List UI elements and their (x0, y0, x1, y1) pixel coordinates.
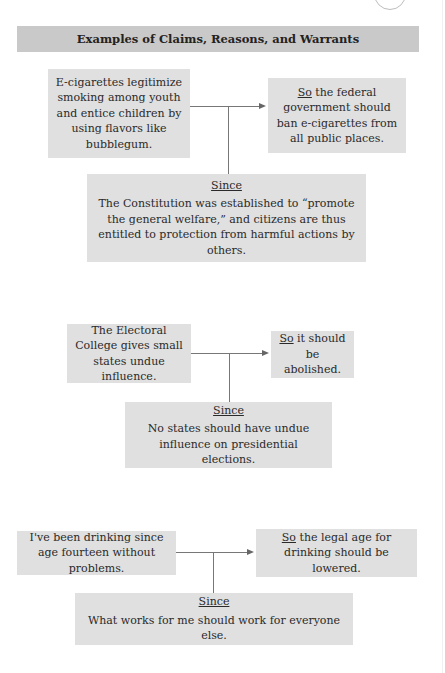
reason-text: I've been drinking since age fourteen wi… (23, 530, 170, 577)
figure-title: Examples of Claims, Reasons, and Warrant… (77, 32, 359, 46)
warrant-text: The Constitution was established to “pro… (93, 196, 360, 258)
warrant-text: No states should have undue influence on… (131, 421, 326, 468)
warrant-keyword: Since (199, 594, 230, 610)
connector-line (228, 106, 229, 174)
reason-box-2: The Electoral College gives small states… (67, 324, 191, 383)
claim-box-3: So the legal age for drinking should be … (256, 529, 417, 577)
warrant-keyword: Since (213, 403, 244, 419)
connector-line (176, 552, 248, 553)
claim-text: the federal government should ban e-ciga… (277, 86, 397, 146)
reason-text: E-cigarettes legitimize smoking among yo… (54, 75, 184, 153)
warrant-box-3: Since What works for me should work for … (75, 593, 353, 645)
connector-line (229, 353, 230, 402)
arrow-right-icon (262, 350, 269, 356)
connector-line (213, 552, 214, 593)
reason-box-1: E-cigarettes legitimize smoking among yo… (48, 69, 190, 158)
arrow-right-icon (247, 549, 254, 555)
warrant-box-2: Since No states should have undue influe… (125, 402, 332, 468)
warrant-keyword: Since (211, 178, 242, 194)
claim-keyword: So (279, 332, 293, 345)
page-edge-divider (442, 0, 443, 673)
claim-text: it should be abolished. (284, 332, 346, 376)
figure-title-bar: Examples of Claims, Reasons, and Warrant… (17, 26, 419, 52)
claim-text: the legal age for drinking should be low… (284, 531, 391, 575)
reason-text: The Electoral College gives small states… (73, 323, 185, 385)
page-corner-circle-icon (374, 0, 406, 10)
warrant-text: What works for me should work for everyo… (81, 613, 347, 644)
connector-line (191, 353, 262, 354)
reason-box-3: I've been drinking since age fourteen wi… (17, 531, 176, 575)
claim-box-2: So it should be abolished. (271, 331, 354, 378)
claim-keyword: So (282, 531, 296, 544)
connector-line (190, 106, 260, 107)
arrow-right-icon (259, 103, 266, 109)
warrant-box-1: Since The Constitution was established t… (87, 174, 366, 262)
claim-box-1: So the federal government should ban e-c… (268, 78, 406, 153)
claim-keyword: So (298, 86, 312, 99)
